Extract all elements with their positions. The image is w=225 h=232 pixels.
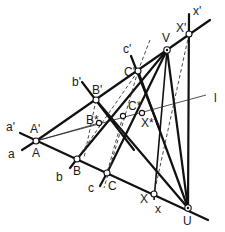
label-C-prime: C' bbox=[124, 65, 135, 79]
label-c-prime: c' bbox=[123, 42, 131, 56]
geometry-diagram: a' a A' A b' B' B* b B c' C' C* c C V x'… bbox=[0, 0, 225, 232]
point-V-center bbox=[166, 49, 168, 51]
label-B: B bbox=[73, 164, 81, 178]
label-V: V bbox=[162, 31, 170, 45]
label-X-star: X* bbox=[141, 116, 154, 130]
line-x bbox=[188, 14, 189, 208]
point-Cstar bbox=[120, 113, 125, 118]
label-A: A bbox=[32, 146, 40, 160]
point-Xprime bbox=[186, 31, 192, 37]
label-c: c bbox=[88, 181, 94, 195]
label-C-star: C* bbox=[128, 99, 142, 113]
point-X bbox=[151, 191, 157, 197]
line-AprimeVXprime bbox=[36, 20, 210, 141]
point-A bbox=[33, 138, 39, 144]
label-B-prime: B' bbox=[92, 83, 102, 97]
label-a-prime: a' bbox=[6, 120, 15, 134]
label-B-star: B* bbox=[86, 113, 99, 127]
point-Cprime bbox=[135, 68, 141, 74]
label-x-prime: x' bbox=[193, 4, 201, 18]
label-a: a bbox=[8, 147, 15, 161]
dash-Bprime-B bbox=[84, 100, 96, 158]
label-l: l bbox=[214, 91, 217, 105]
label-x: x bbox=[155, 202, 161, 216]
point-U-center bbox=[187, 207, 189, 209]
line-V-U bbox=[167, 50, 188, 208]
label-b: b bbox=[56, 170, 63, 184]
label-C: C bbox=[108, 179, 117, 193]
point-C bbox=[104, 170, 110, 176]
label-b-prime: b' bbox=[72, 75, 81, 89]
label-X: X bbox=[140, 192, 148, 206]
label-A-prime: A' bbox=[30, 122, 40, 136]
point-Bprime bbox=[93, 97, 99, 103]
label-X-prime: X' bbox=[176, 21, 186, 35]
label-U: U bbox=[183, 214, 192, 228]
point-B bbox=[74, 156, 80, 162]
